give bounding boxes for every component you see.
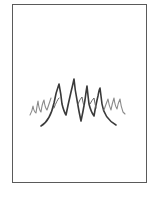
right-light-spikes [104, 98, 125, 114]
left-light-spikes [30, 98, 51, 115]
zigzag-scribble-drawing [0, 0, 154, 198]
